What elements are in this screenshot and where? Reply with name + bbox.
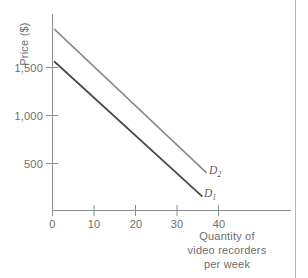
y-tick-label-500: 500 (0, 158, 43, 170)
curve-label-d2-subscript: 2 (217, 170, 221, 179)
x-axis-title-line-3: per week (168, 257, 286, 271)
x-tick-label-10: 10 (79, 218, 109, 230)
demand-curve-d1 (55, 62, 202, 196)
x-tick-label-20: 20 (121, 218, 151, 230)
curve-label-d1: D1 (204, 187, 216, 202)
figure-right-border (295, 0, 296, 278)
demand-curve-figure: Price ($) 1,500 1,000 500 0 10 20 30 40 … (0, 0, 308, 278)
curve-label-d1-subscript: 1 (212, 193, 216, 202)
x-axis-title: Quantity of video recorders per week (168, 229, 286, 271)
curve-label-d2: D2 (209, 164, 221, 179)
demand-curve-d2 (55, 29, 206, 172)
x-axis-title-line-2: video recorders (168, 243, 286, 257)
x-tick-label-0: 0 (38, 218, 67, 230)
y-tick-label-1000: 1,000 (0, 110, 43, 122)
y-tick-label-1500: 1,500 (0, 62, 43, 74)
x-axis-title-line-1: Quantity of (168, 229, 286, 243)
